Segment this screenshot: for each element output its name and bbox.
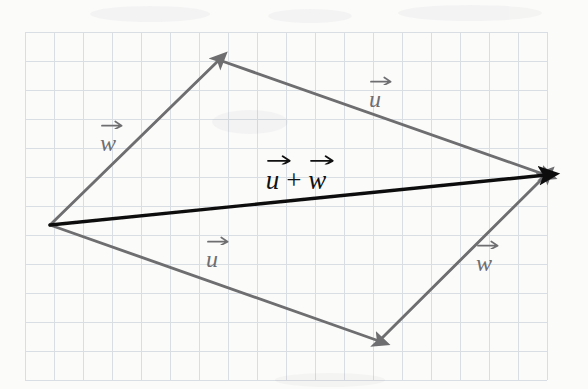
- vector-overbar-arrow-icon: [370, 75, 393, 85]
- vector-overbar-arrow-icon: [267, 153, 293, 164]
- vector-symbol-w: w: [100, 131, 116, 155]
- vector-symbol-letter: w: [100, 130, 116, 156]
- vector-overbar-arrow-icon: [309, 153, 335, 164]
- vector-label-w-lower-right: w: [476, 251, 492, 275]
- vector-label-u-plus-w-resultant: u+w: [266, 165, 327, 196]
- vector-diagram-figure: wuuwu+w: [0, 0, 588, 389]
- vector-label-u-lower-left: u: [206, 247, 218, 271]
- vector-label-w-upper-left: w: [100, 131, 116, 155]
- vector-symbol-letter: w: [308, 165, 326, 195]
- vector-overbar-arrow-icon: [207, 235, 230, 245]
- vector-symbol-letter: w: [476, 250, 492, 276]
- vector-overbar-arrow-icon: [101, 119, 124, 129]
- vector-symbol-letter: u: [369, 86, 381, 112]
- vector-symbol-w: w: [308, 167, 326, 194]
- vector-symbol-u: u: [266, 167, 280, 194]
- vector-overbar-arrow-icon: [477, 239, 500, 249]
- vector-symbol-u: u: [206, 247, 218, 271]
- vector-plus-operator: +: [279, 165, 308, 195]
- vector-symbol-u: u: [369, 87, 381, 111]
- vector-symbol-letter: u: [206, 246, 218, 272]
- vector-symbol-w: w: [476, 251, 492, 275]
- vector-symbol-letter: u: [266, 165, 280, 195]
- vector-label-u-upper-right: u: [369, 87, 381, 111]
